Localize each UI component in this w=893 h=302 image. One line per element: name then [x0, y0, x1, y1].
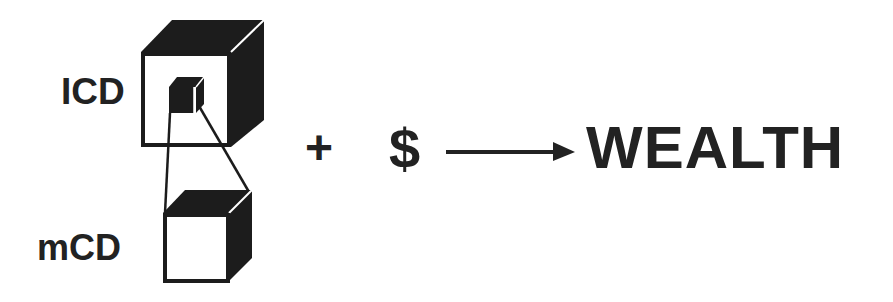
mcd-label: mCD — [37, 230, 121, 266]
small-cube-mcd — [163, 190, 252, 281]
wealth-label: WEALTH — [586, 118, 844, 178]
diagram-canvas: ICD mCD + $ WEALTH — [0, 0, 893, 302]
icd-label: ICD — [61, 73, 125, 110]
plus-sign: + — [305, 124, 333, 172]
dollar-sign-icon: $ — [389, 121, 420, 177]
arrow-icon — [446, 142, 575, 161]
